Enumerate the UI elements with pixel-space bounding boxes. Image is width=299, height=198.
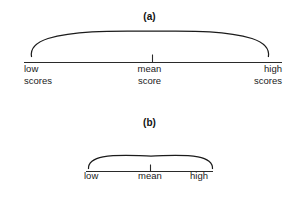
panel-a-high-label: high scores [254,63,282,86]
panel-b: (b) low mean high [0,99,299,198]
panel-b-artwork [0,99,299,174]
panel-a-labels: low scores mean score high scores [0,63,299,93]
panel-b-mean-label: mean [121,170,179,182]
panel-b-low-label: low [84,170,98,182]
panel-b-high-label: high [190,170,208,182]
panel-a-artwork [0,0,299,70]
panel-b-labels: low mean high [0,170,299,198]
figure-root: (a) low scores mean score high scores [0,0,299,198]
panel-a: (a) low scores mean score high scores [0,0,299,99]
panel-a-distribution-curve [31,31,268,56]
